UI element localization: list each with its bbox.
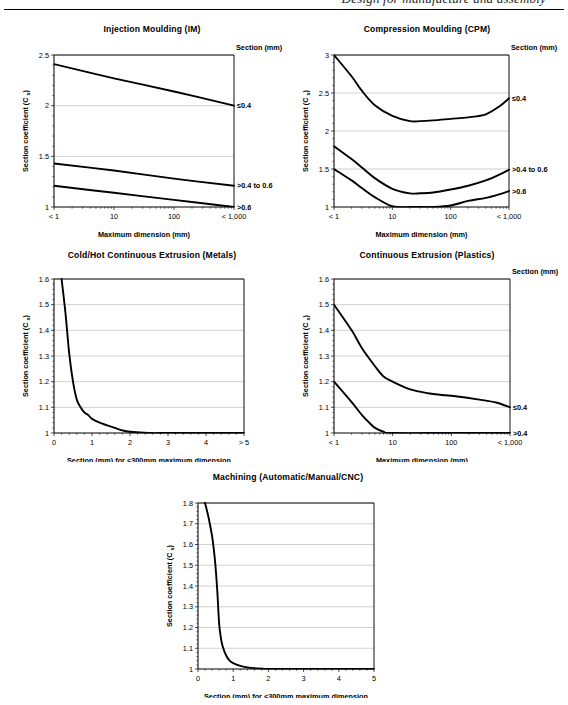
x-tick-label: 100 [445, 212, 457, 221]
y-tick-label: 1.2 [319, 377, 329, 386]
y-tick-label: 1.1 [183, 644, 193, 653]
x-tick-label: 4 [337, 674, 341, 683]
y-tick-label: 1.6 [319, 275, 329, 284]
x-tick-label: 10 [110, 212, 118, 221]
y-axis-title: Section coefficient (C s) [165, 544, 175, 627]
y-tick-label: 1.1 [319, 403, 329, 412]
y-tick-label: 1.3 [39, 352, 49, 361]
y-axis-title: Section coefficient (C s) [301, 89, 311, 172]
y-axis-title: Section coefficient (C s) [21, 314, 31, 397]
x-tick-label: < 1,000 [498, 438, 523, 447]
chart-title: Machining (Automatic/Manual/CNC) [152, 472, 424, 482]
x-tick-label: < 1 [329, 212, 339, 221]
y-tick-label: 1 [189, 665, 193, 674]
y-tick-label: 2.5 [39, 51, 49, 60]
chart-title: Injection Moulding (IM) [16, 24, 288, 34]
y-tick-label: 1.5 [319, 165, 329, 174]
chart-plot-cold-hot-continuous-extrusion-metals: 11.11.21.31.41.51.601234> 5Section coeff… [16, 263, 288, 462]
x-tick-label: 1 [90, 438, 94, 447]
chart-panel-continuous-extrusion-plastics: Continuous Extrusion (Plastics)11.11.21.… [294, 250, 560, 462]
y-tick-label: 1.7 [183, 519, 193, 528]
y-tick-label: 1.6 [183, 540, 193, 549]
y-axis-title: Section coefficient (C s) [21, 89, 31, 172]
series-curve [54, 163, 234, 185]
y-tick-label: 1.5 [39, 300, 49, 309]
y-tick-label: 1 [325, 203, 329, 212]
chart-title: Compression Moulding (CPM) [294, 24, 560, 34]
y-tick-label: 1.5 [319, 300, 329, 309]
y-tick-label: 1.2 [183, 623, 193, 632]
page-header: Design for manufacture and assembly [0, 0, 568, 12]
chart-plot-compression-moulding: 11.522.53< 110100< 1,000Section (mm)≤0.4… [294, 37, 560, 239]
chart-panel-injection-moulding: Injection Moulding (IM)11.522.5< 110100<… [16, 24, 288, 239]
y-tick-label: 3 [325, 51, 329, 60]
y-tick-label: 1 [45, 203, 49, 212]
svg-text:Section coefficient (C s): Section coefficient (C s) [301, 89, 311, 172]
x-tick-label: 0 [196, 674, 200, 683]
y-axis-title: Section coefficient (C s) [301, 314, 311, 397]
x-axis-title: Maximum dimension (mm) [98, 230, 191, 239]
x-tick-label: 10 [389, 438, 397, 447]
series-label: >0.4 to 0.6 [512, 165, 548, 174]
x-axis-title: Section (mm) for <300mm maximum dimensio… [67, 456, 231, 462]
series-curve [54, 186, 234, 207]
x-tick-label: 10 [388, 212, 396, 221]
chart-panel-compression-moulding: Compression Moulding (CPM)11.522.53< 110… [294, 24, 560, 239]
series-label: ≤0.4 [512, 94, 527, 103]
x-tick-label: < 1 [49, 212, 59, 221]
series-label: ≤0.4 [513, 403, 528, 412]
series-label: >0.4 to 0.6 [237, 181, 273, 190]
x-axis-title: Section (mm) for <300mm maximum dimensio… [204, 692, 368, 698]
x-tick-label: 0 [52, 438, 56, 447]
legend-title: Section (mm) [511, 43, 558, 52]
svg-text:Section coefficient (C s): Section coefficient (C s) [301, 314, 311, 397]
x-tick-label: < 1,000 [497, 212, 522, 221]
series-curve [54, 64, 234, 106]
legend-title: Section (mm) [236, 43, 283, 52]
y-tick-label: 1.5 [39, 152, 49, 161]
series-label: >0.4 [513, 429, 528, 438]
x-tick-label: 5 [372, 674, 376, 683]
y-tick-label: 1.1 [39, 403, 49, 412]
x-axis-title: Maximum dimension (mm) [376, 456, 469, 462]
x-tick-label: 2 [266, 674, 270, 683]
y-tick-label: 1.3 [319, 352, 329, 361]
y-tick-label: 1.3 [183, 602, 193, 611]
chart-panel-machining: Machining (Automatic/Manual/CNC)11.11.21… [152, 472, 424, 698]
x-axis-title: Maximum dimension (mm) [375, 230, 468, 239]
y-tick-label: 2 [325, 127, 329, 136]
x-tick-label: 3 [302, 674, 306, 683]
chart-plot-continuous-extrusion-plastics: 11.11.21.31.41.51.6< 110100< 1,000Sectio… [294, 263, 560, 462]
series-label: >0.6 [512, 187, 526, 196]
x-tick-label: < 1,000 [222, 212, 247, 221]
y-tick-label: 1.5 [183, 561, 193, 570]
x-tick-label: 2 [128, 438, 132, 447]
y-tick-label: 2 [45, 101, 49, 110]
y-tick-label: 1.4 [183, 582, 193, 591]
series-label: >0.6 [237, 203, 251, 212]
chart-panel-cold-hot-continuous-extrusion-metals: Cold/Hot Continuous Extrusion (Metals)11… [16, 250, 288, 462]
y-tick-label: 1.4 [39, 326, 49, 335]
y-tick-label: 1.4 [319, 326, 329, 335]
y-tick-label: 1.6 [39, 275, 49, 284]
y-tick-label: 2.5 [319, 89, 329, 98]
svg-text:Section coefficient (C s): Section coefficient (C s) [21, 89, 31, 172]
header-rule [4, 9, 564, 10]
legend-title: Section (mm) [512, 267, 559, 276]
chart-plot-machining: 11.11.21.31.41.51.61.71.8012345Section c… [152, 485, 424, 698]
chart-title: Cold/Hot Continuous Extrusion (Metals) [16, 250, 288, 260]
series-curve [334, 169, 509, 207]
y-tick-label: 1 [325, 429, 329, 438]
x-tick-label: 100 [168, 212, 180, 221]
svg-text:Section coefficient (C s): Section coefficient (C s) [165, 544, 175, 627]
x-tick-label: 100 [445, 438, 457, 447]
y-tick-label: 1.8 [183, 499, 193, 508]
svg-text:Section coefficient (C s): Section coefficient (C s) [21, 314, 31, 397]
chart-title: Continuous Extrusion (Plastics) [294, 250, 560, 260]
y-tick-label: 1.2 [39, 377, 49, 386]
x-tick-label: > 5 [239, 438, 249, 447]
y-tick-label: 1 [45, 429, 49, 438]
chart-plot-injection-moulding: 11.522.5< 110100< 1,000Section (mm)≤0.4>… [16, 37, 288, 239]
header-running-title: Design for manufacture and assembly [342, 0, 546, 7]
x-tick-label: < 1 [329, 438, 339, 447]
